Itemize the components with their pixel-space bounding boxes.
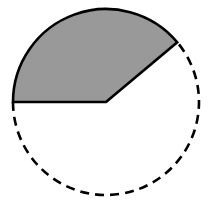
shaded-sector	[13, 9, 177, 102]
circle-sector-diagram	[0, 0, 214, 209]
